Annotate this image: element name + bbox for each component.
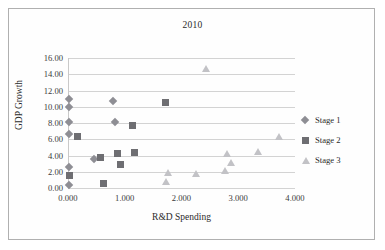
data-point [65,129,73,137]
y-tick-label: 6.00 [23,134,63,144]
data-point [65,94,73,102]
gridline [68,188,295,189]
legend-label: Stage 2 [315,135,341,145]
y-tick-label: 4.00 [23,151,63,161]
x-tick-label: 2.000 [160,193,204,203]
y-tick-label: 14.00 [23,69,63,79]
data-point [131,149,138,156]
data-point [129,122,136,129]
y-tick-label: 8.00 [23,118,63,128]
y-tick-label: 12.00 [23,86,63,96]
data-point [110,118,118,126]
data-point [275,133,283,140]
scatter-chart: 2010 GDP Growth R&D Spending 0.002.004.0… [0,0,385,250]
plot-area [68,58,295,188]
data-point [100,180,107,187]
y-tick-label: 10.00 [23,102,63,112]
x-tick-label: 1.000 [103,193,147,203]
x-tick-label: 0.000 [46,193,90,203]
y-tick-label: 0.00 [23,183,63,193]
data-point [227,159,235,166]
data-point [114,150,121,157]
data-point [65,163,73,171]
data-point [254,148,262,155]
data-point [223,150,231,157]
diamond-marker-icon [301,116,309,124]
square-marker-icon [302,137,309,144]
data-point [109,97,117,105]
data-point [221,167,229,174]
y-tick-label: 16.00 [23,53,63,63]
x-tick-label: 3.000 [216,193,260,203]
data-point [74,133,81,140]
legend-item-stage-2[interactable]: Stage 2 [302,132,380,152]
chart-title: 2010 [0,20,385,30]
triangle-marker-icon [302,157,310,164]
x-tick-label: 4.000 [273,193,317,203]
y-tick-label: 2.00 [23,167,63,177]
data-point [65,181,73,189]
data-point [162,178,170,185]
data-point [65,118,73,126]
data-point [162,99,169,106]
legend-item-stage-1[interactable]: Stage 1 [302,112,380,132]
data-point [97,154,104,161]
data-point [164,169,172,176]
data-point [65,103,73,111]
data-point [117,161,124,168]
legend-label: Stage 1 [315,115,341,125]
chart-legend: Stage 1Stage 2Stage 3 [302,112,380,172]
legend-item-stage-3[interactable]: Stage 3 [302,152,380,172]
data-point [202,65,210,72]
data-point [192,170,200,177]
legend-label: Stage 3 [315,155,341,165]
x-axis-title: R&D Spending [68,212,295,222]
data-point [66,172,73,179]
